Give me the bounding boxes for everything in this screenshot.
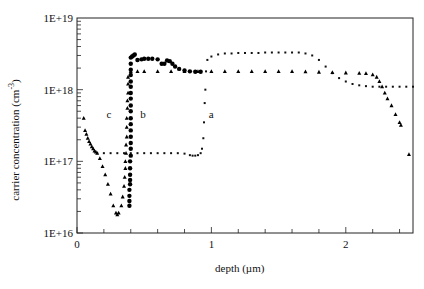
data-point-a [251,52,253,54]
data-point-a [150,152,152,154]
data-point-b [129,73,133,77]
data-point-b [129,128,133,132]
data-point-b [177,67,181,71]
data-point-b [129,96,133,100]
data-point-c [83,128,87,132]
series-a-points [96,52,414,157]
y-axis-label: carrier concentration (cm-3) [7,79,21,201]
x-tick-label: 1 [209,238,215,250]
data-point-a [231,52,233,54]
data-point-a [392,86,394,88]
data-point-a [204,89,206,91]
data-point-a [372,86,374,88]
data-point-a [202,137,204,139]
data-point-b [129,103,133,107]
data-point-b [173,64,177,68]
data-point-a [412,86,414,88]
data-point-a [365,85,367,87]
data-point-b [127,204,131,208]
data-point-c [98,156,102,160]
series-b-points [127,52,203,208]
data-point-b [129,116,133,120]
data-point-a [136,152,138,154]
y-tick-label: 1E+17 [44,155,74,167]
data-point-b [128,173,132,177]
data-point-c [135,69,139,73]
y-axis-label-container: carrier concentration (cm-3) [4,45,24,235]
data-point-b [128,159,132,163]
data-point-b [146,57,150,61]
data-point-c [364,71,368,75]
data-point-c [380,85,384,89]
data-point-c [156,69,160,73]
data-point-a [257,52,259,54]
data-point-c [106,182,110,186]
data-point-c [371,72,375,76]
y-tick-label: 1E+19 [44,12,74,24]
data-point-c [125,116,129,120]
data-point-a [110,152,112,154]
data-point-a [192,155,194,157]
data-point-c [125,135,129,139]
data-point-a [298,52,300,54]
data-point-b [129,153,133,157]
data-point-c [377,79,381,83]
data-point-a [345,81,347,83]
data-point-c [125,125,129,129]
data-point-a [206,59,208,61]
data-point-a [143,152,145,154]
data-point-a [325,66,327,68]
x-axis-label: depth (µm) [215,262,264,274]
data-point-a [338,77,340,79]
data-point-c [389,103,393,107]
data-point-b [127,188,131,192]
data-point-c [111,204,115,208]
data-point-c [357,71,361,75]
data-point-a [103,152,105,154]
data-point-a [318,59,320,61]
data-point-c [250,69,254,73]
x-tick-label: 2 [343,238,349,250]
data-point-a [264,52,266,54]
data-point-a [194,155,196,157]
data-point-b [129,141,133,145]
data-point-a [157,152,159,154]
data-point-a [217,53,219,55]
y-axis-label-close: ) [9,79,21,83]
data-point-c [169,69,173,73]
data-point-a [399,86,401,88]
y-axis-label-exponent: -3 [7,83,16,90]
data-point-c [84,132,88,136]
data-point-c [317,70,321,74]
curve-label-a: a [209,108,214,120]
data-point-c [263,69,267,73]
data-point-b [135,58,139,62]
data-point-c [375,75,379,79]
data-point-a [352,83,354,85]
data-point-b [128,166,132,170]
data-point-c [236,69,240,73]
data-point-a [237,52,239,54]
data-point-a [163,152,165,154]
y-axis-label-text: carrier concentration (cm [9,90,21,201]
data-point-c [303,70,307,74]
data-point-c [330,70,334,74]
curve-label-b: b [140,108,146,120]
data-point-c [124,143,128,147]
data-point-c [125,106,129,110]
data-point-a [170,152,172,154]
chart-canvas: 1E+161E+171E+181E+19 012 abc [0,0,424,289]
data-point-b [129,135,133,139]
data-point-b [155,57,159,61]
data-point-a [284,52,286,54]
data-point-c [123,166,127,170]
data-point-b [129,79,133,83]
data-point-b [142,57,146,61]
data-point-a [278,52,280,54]
data-point-a [405,86,407,88]
data-point-a [201,148,203,150]
data-point-a [205,70,207,72]
data-point-a [385,86,387,88]
data-point-c [121,195,125,199]
data-point-a [271,52,273,54]
